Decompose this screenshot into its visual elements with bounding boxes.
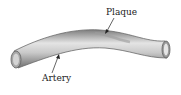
artery-label: Artery — [42, 74, 71, 83]
artery-diagram — [0, 0, 181, 95]
plaque-pointer-line — [107, 18, 114, 31]
plaque-label: Plaque — [106, 8, 137, 17]
artery-tube — [11, 30, 170, 68]
artery-pointer-line — [52, 57, 58, 73]
